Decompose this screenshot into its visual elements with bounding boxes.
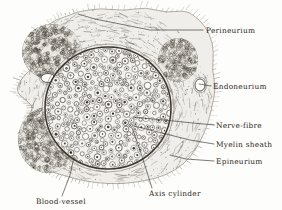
- histology-illustration: PerineuriumEndoneuriumNerve-fibreMyelin …: [0, 0, 282, 210]
- label-epineurium: Epineurium: [216, 157, 263, 166]
- label-myelin-sheath: Myelin sheath: [216, 140, 272, 149]
- label-axis-cylinder: Axis cylinder: [148, 189, 201, 198]
- label-blood-vessel: Blood-vessel: [36, 197, 86, 206]
- label-nerve-fibre: Nerve-fibre: [216, 121, 262, 130]
- nerve-cross-section-figure: PerineuriumEndoneuriumNerve-fibreMyelin …: [0, 0, 282, 210]
- label-endoneurium: Endoneurium: [213, 82, 267, 91]
- label-perineurium: Perineurium: [206, 26, 255, 35]
